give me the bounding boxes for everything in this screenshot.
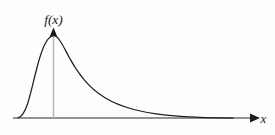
x-axis-arrow-icon [250,114,260,123]
x-axis-label: x [260,111,267,126]
density-curve-path [18,36,233,119]
y-axis-label: f(x) [44,12,63,27]
figure-container: f(x) x [0,0,275,135]
density-curve-figure: f(x) x [0,0,275,135]
